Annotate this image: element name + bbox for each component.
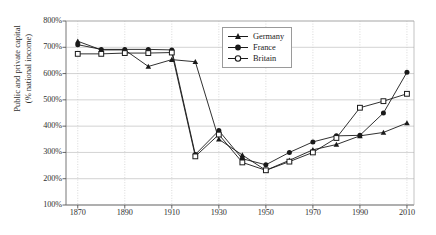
legend: Germany France Britain <box>222 27 292 68</box>
filled-circle-icon <box>227 42 249 53</box>
plot-area <box>0 0 436 235</box>
legend-label-germany: Germany <box>253 32 284 41</box>
filled-triangle-icon <box>227 31 249 42</box>
legend-item: France <box>227 42 284 53</box>
legend-label-britain: Britain <box>253 54 276 63</box>
legend-label-france: France <box>253 43 276 52</box>
capital-income-chart: Public and private capital (% national i… <box>0 0 436 235</box>
legend-item: Britain <box>227 53 284 64</box>
open-circle-icon <box>227 53 249 64</box>
legend-item: Germany <box>227 31 284 42</box>
